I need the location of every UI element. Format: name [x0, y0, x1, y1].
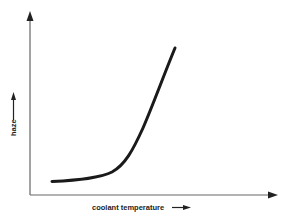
haze-vs-coolant-temperature-diagram: haze coolant temperature [0, 0, 284, 219]
haze-curve [52, 48, 175, 182]
y-axis-label-group: haze [9, 119, 18, 136]
x-axis-label: coolant temperature [92, 203, 164, 212]
x-label-arrow-icon [183, 205, 191, 210]
y-label-arrow-icon [11, 92, 16, 100]
x-axis-arrowhead-icon [268, 192, 278, 199]
y-axis-arrowhead-icon [27, 11, 34, 21]
y-axis-label: haze [9, 119, 18, 136]
